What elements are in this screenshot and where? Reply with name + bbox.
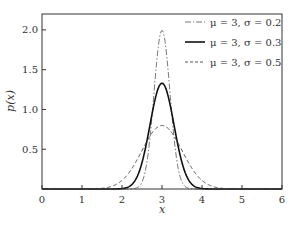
series-line-sigma-0-3 xyxy=(42,83,282,189)
x-tick-label: 2 xyxy=(119,194,125,205)
y-tick-label: 1.0 xyxy=(22,104,38,115)
legend-label-sigma-0-3: μ = 3, σ = 0.3 xyxy=(210,37,281,48)
legend-label-sigma-0-2: μ = 3, σ = 0.2 xyxy=(210,17,281,28)
x-axis-ticks: 0123456 xyxy=(39,185,285,205)
plot-lines xyxy=(42,30,282,189)
chart: 0123456 0.51.01.52.0 x p(x) μ = 3, σ = 0… xyxy=(0,0,296,226)
y-axis-label: p(x) xyxy=(4,90,17,112)
x-tick-label: 4 xyxy=(199,194,205,205)
x-tick-label: 6 xyxy=(279,194,285,205)
x-tick-label: 0 xyxy=(39,194,45,205)
series-line-sigma-0-2 xyxy=(42,30,282,189)
legend-label-sigma-0-5: μ = 3, σ = 0.5 xyxy=(210,57,281,68)
x-tick-label: 1 xyxy=(79,194,85,205)
y-tick-label: 1.5 xyxy=(22,64,38,75)
x-axis-label: x xyxy=(159,203,166,216)
y-tick-label: 0.5 xyxy=(22,144,38,155)
y-tick-label: 2.0 xyxy=(22,24,38,35)
legend: μ = 3, σ = 0.2 μ = 3, σ = 0.3 μ = 3, σ =… xyxy=(185,17,281,68)
x-tick-label: 5 xyxy=(239,194,245,205)
series-line-sigma-0-5 xyxy=(42,126,282,189)
